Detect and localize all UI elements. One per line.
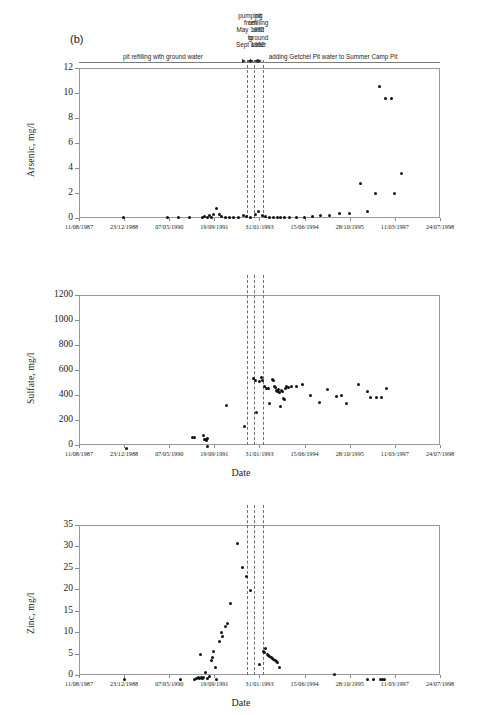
- data-point: [326, 388, 329, 391]
- data-point: [208, 675, 211, 678]
- data-point: [220, 631, 223, 634]
- data-point: [224, 216, 227, 219]
- x-tick-mark: [350, 675, 351, 678]
- y-tick-label: 25: [31, 562, 73, 572]
- data-point: [232, 216, 235, 219]
- y-tick-label: 200: [31, 414, 73, 424]
- y-tick-mark: [75, 295, 79, 296]
- y-tick-label: 2: [31, 187, 73, 197]
- data-point: [215, 207, 218, 210]
- x-tick-mark: [259, 445, 260, 448]
- data-point: [193, 436, 196, 439]
- x-tick-mark: [169, 445, 170, 448]
- data-point: [366, 390, 369, 393]
- x-tick-mark: [395, 218, 396, 221]
- phase-label-line: water: [248, 41, 268, 48]
- data-point: [245, 575, 248, 578]
- data-point: [214, 666, 217, 669]
- data-point: [225, 404, 228, 407]
- data-point: [123, 678, 126, 681]
- x-tick-mark: [350, 445, 351, 448]
- y-tick-mark: [75, 143, 79, 144]
- x-tick-mark: [259, 675, 260, 678]
- data-point: [249, 589, 252, 592]
- y-tick-label: 0: [31, 212, 73, 222]
- y-tick-mark: [75, 370, 79, 371]
- y-tick-label: 600: [31, 364, 73, 374]
- data-point: [218, 640, 221, 643]
- data-point: [215, 678, 218, 681]
- x-tick-mark: [395, 675, 396, 678]
- x-tick-mark: [79, 445, 80, 448]
- y-tick-mark: [75, 118, 79, 119]
- event-marker-line: [247, 60, 248, 218]
- data-point: [179, 678, 182, 681]
- data-point: [290, 385, 293, 388]
- y-axis-title: Zinc, mg/l: [26, 592, 36, 634]
- data-point: [375, 396, 378, 399]
- data-point: [125, 447, 128, 450]
- y-tick-label: 35: [31, 519, 73, 529]
- data-point: [226, 622, 229, 625]
- x-tick-mark: [259, 218, 260, 221]
- event-marker-line: [247, 275, 248, 445]
- x-tick-label: 24/07/1998: [410, 680, 470, 687]
- arrow-right-icon: [258, 59, 262, 63]
- y-tick-mark: [75, 320, 79, 321]
- data-point: [348, 212, 351, 215]
- x-tick-mark: [395, 445, 396, 448]
- x-tick-mark: [169, 218, 170, 221]
- data-point: [400, 172, 403, 175]
- data-point: [359, 182, 362, 185]
- data-point: [383, 678, 386, 681]
- x-tick-mark: [214, 445, 215, 448]
- y-tick-mark: [75, 420, 79, 421]
- data-point: [202, 676, 205, 679]
- data-point: [345, 402, 348, 405]
- data-point: [204, 671, 207, 674]
- data-point: [328, 214, 331, 217]
- y-tick-label: 15: [31, 605, 73, 615]
- event-marker-line: [254, 60, 255, 218]
- event-marker-line: [247, 505, 248, 675]
- figure-container: (b) 024681012Arsenic, mg/l11/08/198723/1…: [0, 0, 482, 715]
- event-marker-line: [263, 275, 264, 445]
- x-tick-label: 24/07/1998: [410, 450, 470, 457]
- data-point: [366, 210, 369, 213]
- data-point: [220, 215, 223, 218]
- data-point: [309, 394, 312, 397]
- y-tick-label: 1200: [31, 289, 73, 299]
- data-point: [122, 216, 125, 219]
- y-tick-label: 10: [31, 87, 73, 97]
- x-tick-mark: [440, 445, 441, 448]
- event-marker-line: [263, 60, 264, 218]
- chart-panel-arsenic: 024681012Arsenic, mg/l11/08/198723/12/19…: [0, 0, 482, 250]
- phase-label-line: refilling: [248, 19, 268, 26]
- y-tick-mark: [75, 193, 79, 194]
- phase-label-line: pit: [248, 12, 268, 19]
- x-tick-mark: [440, 675, 441, 678]
- data-point: [279, 216, 282, 219]
- data-point: [318, 401, 321, 404]
- y-tick-label: 12: [31, 62, 73, 72]
- data-point: [249, 216, 252, 219]
- y-tick-label: 8: [31, 112, 73, 122]
- data-point: [303, 216, 306, 219]
- phase-label: pit refilling with ground water: [123, 53, 203, 60]
- data-point: [254, 379, 257, 382]
- x-tick-mark: [350, 218, 351, 221]
- y-tick-label: 400: [31, 389, 73, 399]
- data-point: [272, 379, 275, 382]
- y-tick-label: 0: [31, 669, 73, 679]
- data-point: [221, 635, 224, 638]
- data-point: [255, 411, 258, 414]
- event-marker-line: [254, 505, 255, 675]
- data-point: [211, 656, 214, 659]
- data-point: [236, 542, 239, 545]
- data-point: [210, 659, 213, 662]
- pit-refilling-label: pitrefillingwithgroundwater: [248, 12, 268, 48]
- phase-span-line: [263, 62, 440, 63]
- data-point: [206, 437, 209, 440]
- event-marker-line: [254, 275, 255, 445]
- x-tick-label: 24/07/1998: [410, 223, 470, 230]
